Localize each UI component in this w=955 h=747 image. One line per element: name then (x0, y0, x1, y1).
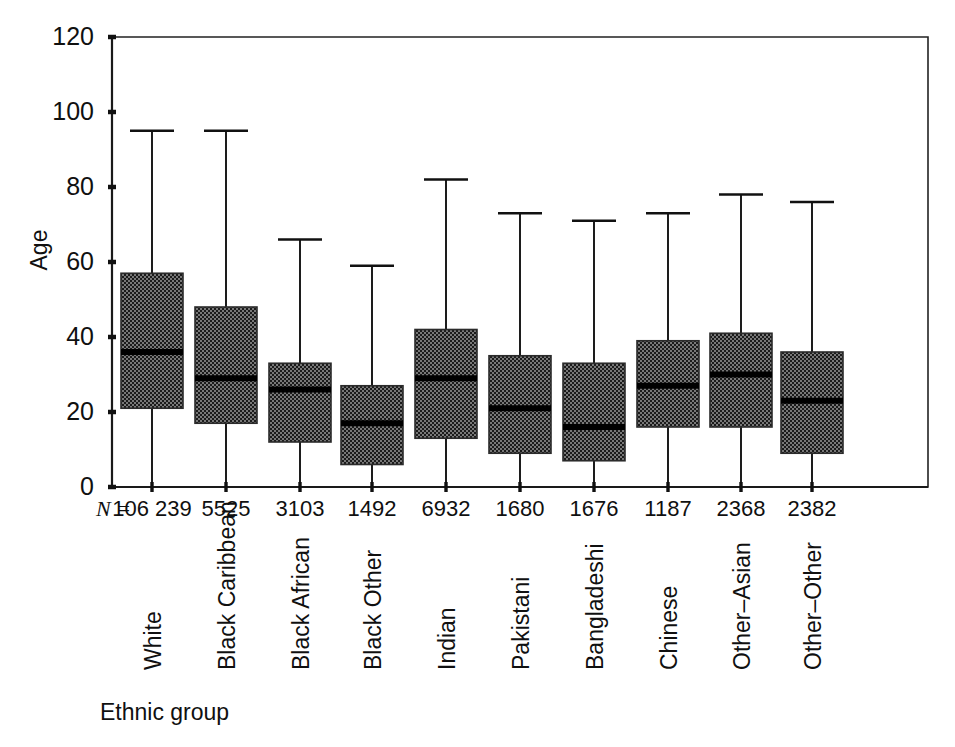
box-plot-item (563, 221, 625, 487)
box-plot-item (269, 240, 331, 488)
box-iqr-rect (489, 356, 551, 454)
boxplot-canvas: 020406080100120 N =106 23955253103149269… (0, 0, 955, 747)
box-plot-series (121, 131, 843, 487)
sample-size-value: 2382 (788, 496, 837, 521)
box-plot-item (637, 213, 699, 487)
category-label: White (140, 611, 166, 670)
box-plot-item (341, 266, 403, 487)
box-iqr-rect (195, 307, 257, 423)
box-plot-item (195, 131, 257, 487)
box-plot-item (121, 131, 183, 487)
box-iqr-rect (415, 330, 477, 439)
y-tick-label: 0 (80, 472, 94, 500)
sample-size-value: 1187 (644, 496, 691, 521)
sample-size-value: 3103 (276, 496, 325, 521)
sample-size-value: 1676 (570, 496, 619, 521)
box-plot-item (415, 180, 477, 488)
boxplot-figure: 020406080100120 N =106 23955253103149269… (0, 0, 955, 747)
y-tick-label: 20 (66, 397, 94, 425)
y-tick-label: 60 (66, 247, 94, 275)
category-label: Bangladeshi (582, 543, 608, 670)
sample-size-value: 6932 (422, 496, 471, 521)
box-iqr-rect (121, 273, 183, 408)
category-label: Black African (288, 537, 314, 670)
box-plot-item (710, 195, 772, 488)
category-label: Chinese (656, 586, 682, 670)
category-label: Other–Other (800, 542, 826, 670)
category-label: Other–Asian (729, 542, 755, 670)
box-iqr-rect (563, 363, 625, 461)
sample-size-value: 2368 (717, 496, 766, 521)
sample-size-value: 1680 (496, 496, 545, 521)
box-iqr-rect (710, 333, 772, 427)
sample-size-value: 1492 (348, 496, 397, 521)
x-axis-title: Ethnic group (100, 699, 229, 725)
y-axis-title: Age (26, 230, 52, 271)
y-axis: 020406080100120 (52, 22, 116, 500)
y-tick-label: 100 (52, 97, 94, 125)
box-plot-item (489, 213, 551, 487)
sample-size-row: N =106 239552531031492693216801676118723… (95, 496, 836, 521)
y-tick-label: 120 (52, 22, 94, 50)
box-iqr-rect (269, 363, 331, 442)
sample-size-value: 106 239 (112, 496, 192, 521)
category-label: Black Caribbean (214, 501, 240, 670)
box-plot-item (781, 202, 843, 487)
category-label: Indian (434, 607, 460, 670)
y-tick-label: 40 (66, 322, 94, 350)
y-tick-label: 80 (66, 172, 94, 200)
category-labels: WhiteBlack CaribbeanBlack AfricanBlack O… (140, 501, 826, 670)
category-label: Pakistani (508, 577, 534, 670)
category-label: Black Other (360, 550, 386, 670)
